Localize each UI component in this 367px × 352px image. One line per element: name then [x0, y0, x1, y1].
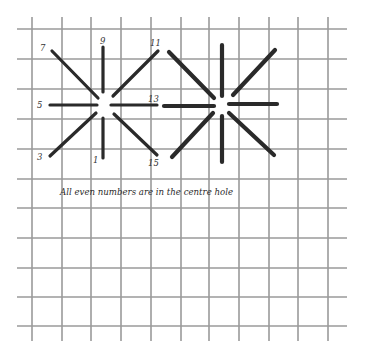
stitch-number-label: 5	[37, 100, 42, 110]
stitch-number-label: 1	[93, 155, 98, 165]
stitch-number-label: 7	[40, 43, 46, 53]
stitch-number-label: 13	[148, 94, 159, 104]
stitch-diagram: 13579111315 All even numbers are in the …	[0, 0, 367, 352]
diagram-caption: All even numbers are in the centre hole	[59, 187, 233, 197]
stitch-number-label: 9	[100, 36, 106, 46]
stitch-number-label: 11	[150, 38, 161, 48]
stitch-number-label: 3	[37, 152, 42, 162]
stitch-number-label: 15	[148, 158, 159, 168]
